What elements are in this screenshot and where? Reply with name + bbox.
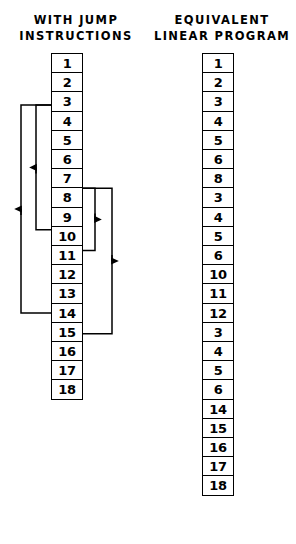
linear-instruction-cell: 18 [202, 475, 234, 496]
jump-instruction-cell: 16 [51, 341, 83, 362]
jump-arrow-layer [0, 0, 296, 544]
linear-instruction-cell: 1 [202, 53, 234, 74]
linear-instruction-cell: 15 [202, 418, 234, 439]
jump-instruction-cell: 6 [51, 149, 83, 170]
jump-instruction-cell: 3 [51, 91, 83, 112]
linear-instruction-cell: 16 [202, 437, 234, 458]
linear-instruction-cell: 12 [202, 303, 234, 324]
jump-instruction-cell: 10 [51, 226, 83, 247]
jump-instruction-cell: 4 [51, 111, 83, 132]
linear-instruction-cell: 3 [202, 187, 234, 208]
jump-instruction-cell: 1 [51, 53, 83, 74]
jump-7-to-10 [83, 188, 95, 250]
diagram-canvas: WITH JUMP INSTRUCTIONS EQUIVALENT LINEAR… [0, 0, 296, 544]
jump-instruction-cell: 17 [51, 360, 83, 381]
jump-instruction-cell: 12 [51, 264, 83, 285]
linear-instruction-cell: 6 [202, 149, 234, 170]
linear-instruction-cell: 2 [202, 72, 234, 93]
jump-instruction-cell: 7 [51, 168, 83, 189]
linear-instruction-cell: 4 [202, 341, 234, 362]
jump-instruction-cell: 15 [51, 322, 83, 343]
jump-instruction-cell: 11 [51, 245, 83, 266]
jump-instruction-cell: 14 [51, 303, 83, 324]
linear-instruction-cell: 5 [202, 360, 234, 381]
linear-instruction-cell: 6 [202, 245, 234, 266]
linear-instruction-cell: 14 [202, 399, 234, 420]
jump-instruction-cell: 9 [51, 207, 83, 228]
jump-13-to-3 [21, 105, 51, 313]
linear-instruction-cell: 5 [202, 130, 234, 151]
jump-7-to-14 [83, 188, 112, 334]
linear-instruction-cell: 4 [202, 111, 234, 132]
jump-9-to-3 [36, 105, 51, 230]
linear-instruction-cell: 10 [202, 264, 234, 285]
linear-instruction-cell: 5 [202, 226, 234, 247]
jump-instruction-cell: 2 [51, 72, 83, 93]
linear-instruction-cell: 3 [202, 91, 234, 112]
jump-instruction-cell: 18 [51, 379, 83, 400]
instruction-column-linear: 1234568345610111234561415161718 [202, 53, 234, 496]
column-header-with-jump-instructions: WITH JUMP INSTRUCTIONS [6, 12, 146, 44]
linear-instruction-cell: 4 [202, 207, 234, 228]
linear-instruction-cell: 11 [202, 283, 234, 304]
jump-instruction-cell: 5 [51, 130, 83, 151]
linear-instruction-cell: 3 [202, 322, 234, 343]
linear-instruction-cell: 6 [202, 379, 234, 400]
column-header-equivalent-linear-program: EQUIVALENT LINEAR PROGRAM [152, 12, 292, 44]
instruction-column-with-jumps: 123456789101112131415161718 [51, 53, 83, 400]
jump-instruction-cell: 13 [51, 283, 83, 304]
linear-instruction-cell: 8 [202, 168, 234, 189]
jump-instruction-cell: 8 [51, 187, 83, 208]
linear-instruction-cell: 17 [202, 456, 234, 477]
